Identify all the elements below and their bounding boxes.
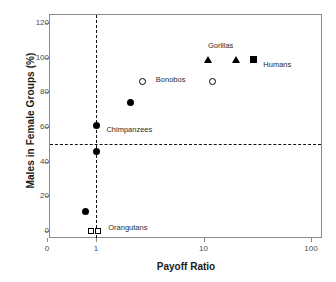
x-axis-title: Payoff Ratio [49, 261, 323, 272]
x-tick-mark [204, 238, 205, 242]
x-tick-mark [47, 238, 48, 242]
data-point-orangutans-open-square-right [95, 228, 101, 234]
horizontal-50-percent [50, 144, 321, 145]
y-tick-label: 120 [9, 19, 49, 27]
y-tick-label: 80 [9, 88, 49, 96]
y-tick-label: 60 [9, 123, 49, 131]
x-axis-tick-100: 100 [296, 244, 326, 253]
annotation-bonobos: Bonobos [156, 76, 186, 84]
y-tick-label: 20 [9, 192, 49, 200]
data-point-orangutans-open-square-left [88, 228, 94, 234]
data-point-open-circle-right [209, 78, 216, 85]
scatter-chart-figure: Males in Female Groups (%) Payoff Ratio … [0, 0, 336, 282]
x-axis-tick-10: 10 [189, 244, 219, 253]
x-axis-tick-1: 1 [81, 244, 111, 253]
plot-area-frame [49, 14, 322, 238]
y-tick-label: 0 [9, 227, 49, 235]
annotation-gorillas: Gorillas [208, 42, 233, 50]
cut-off-caption-strip [4, 274, 332, 282]
annotation-orangutans: Orangutans [108, 224, 147, 232]
data-point-chimpanzees-filled-circle-61 [93, 122, 100, 129]
data-point-gorillas-triangle-right [232, 56, 240, 63]
data-point-gorillas-triangle-left [204, 56, 212, 63]
y-tick-label: 40 [9, 158, 49, 166]
annotation-chimpanzees: Chimpanzees [106, 126, 152, 134]
x-tick-mark [311, 238, 312, 242]
data-point-humans-filled-square [250, 56, 257, 63]
x-axis-tick-0: 0 [32, 244, 62, 253]
data-point-filled-circle-46 [93, 148, 100, 155]
y-axis-title: Males in Female Groups (%) [25, 21, 36, 221]
annotation-humans: Humans [263, 61, 291, 69]
y-tick-label: 100 [9, 54, 49, 62]
x-tick-mark [96, 238, 97, 242]
